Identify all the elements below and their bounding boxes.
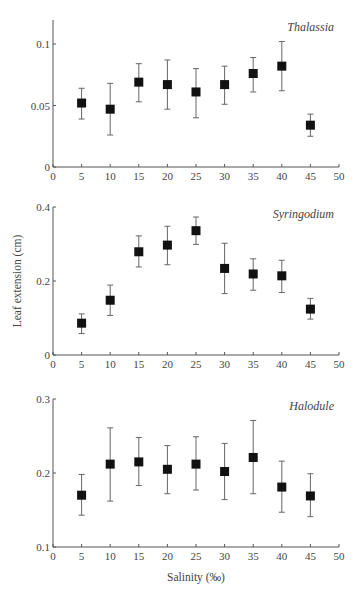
x-tick-label: 50 [334,358,346,370]
figure-canvas: 0510152025303540455000.050.1Thalassia051… [0,0,361,593]
x-tick-label: 0 [50,170,56,182]
data-point-marker [163,241,172,250]
panel-title: Halodule [288,399,334,413]
y-tick-label: 0.4 [36,201,50,213]
data-point-marker [220,80,229,89]
x-tick-label: 45 [305,170,317,182]
x-tick-label: 30 [219,170,231,182]
data-point-marker [306,305,315,314]
data-point-marker [306,491,315,500]
x-tick-label: 25 [191,358,203,370]
data-point-marker [277,271,286,280]
panel-halodule: 051015202530354045500.10.20.3Halodule [36,393,345,562]
data-point-marker [106,460,115,469]
data-point-marker [163,465,172,474]
data-point-marker [106,296,115,305]
data-point-marker [220,467,229,476]
x-tick-label: 50 [334,550,346,562]
data-point-marker [77,491,86,500]
x-tick-label: 35 [248,550,260,562]
data-point-marker [249,269,258,278]
x-tick-label: 35 [248,170,260,182]
y-tick-label: 0.2 [36,275,50,287]
x-tick-label: 30 [219,358,231,370]
y-tick-label: 0.2 [36,467,50,479]
x-tick-label: 10 [105,358,117,370]
x-tick-label: 0 [50,550,56,562]
x-tick-label: 10 [105,170,117,182]
data-point-marker [106,105,115,114]
x-tick-label: 0 [50,358,56,370]
x-tick-label: 35 [248,358,260,370]
data-point-marker [277,62,286,71]
x-tick-label: 10 [105,550,117,562]
x-axis-label: Salinity (‰) [167,571,225,584]
x-tick-label: 40 [276,170,288,182]
x-tick-label: 5 [79,550,85,562]
x-tick-label: 5 [79,170,85,182]
x-tick-label: 45 [305,358,317,370]
data-point-marker [306,121,315,130]
data-point-marker [134,457,143,466]
x-tick-label: 25 [191,170,203,182]
data-point-marker [77,99,86,108]
data-point-marker [277,483,286,492]
data-point-marker [220,264,229,273]
y-tick-label: 0.1 [36,38,50,50]
data-point-marker [249,453,258,462]
x-tick-label: 15 [133,550,145,562]
panel-title: Thalassia [287,20,334,34]
x-tick-label: 15 [133,170,145,182]
y-tick-label: 0.1 [36,541,50,553]
x-tick-label: 20 [162,358,174,370]
data-point-marker [134,247,143,256]
x-tick-label: 25 [191,550,203,562]
data-point-marker [192,226,201,235]
panel-thalassia: 0510152025303540455000.050.1Thalassia [31,20,345,182]
y-tick-label: 0.3 [36,393,50,405]
data-point-marker [77,319,86,328]
data-point-marker [134,78,143,87]
x-tick-label: 20 [162,550,174,562]
y-tick-label: 0 [45,161,51,173]
x-tick-label: 50 [334,170,346,182]
data-point-marker [192,87,201,96]
x-tick-label: 40 [276,550,288,562]
x-tick-label: 20 [162,170,174,182]
x-tick-label: 45 [305,550,317,562]
x-tick-label: 5 [79,358,85,370]
y-axis-label: Leaf extension (cm) [11,235,24,328]
data-point-marker [192,460,201,469]
x-tick-label: 30 [219,550,231,562]
x-tick-label: 15 [133,358,145,370]
panel-syringodium: 0510152025303540455000.20.4Syringodium [36,201,345,370]
y-tick-label: 0.05 [31,100,51,112]
panel-title: Syringodium [273,207,335,221]
y-tick-label: 0 [45,349,51,361]
x-tick-label: 40 [276,358,288,370]
data-point-marker [163,80,172,89]
data-point-marker [249,69,258,78]
